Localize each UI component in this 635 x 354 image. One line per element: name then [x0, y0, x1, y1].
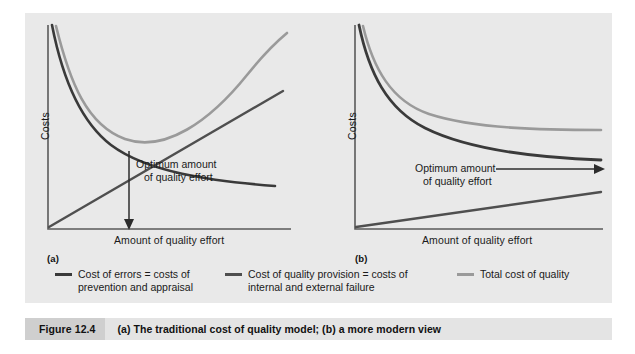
chart-b-optimum-arrow-head: [594, 164, 605, 174]
legend-item-total-cost: Total cost of quality: [457, 268, 569, 281]
chart-a-y-axis-label: Costs: [39, 112, 51, 140]
legend-label-cost-of-errors: Cost of errors = costs of prevention and…: [78, 268, 193, 294]
legend-item-quality-provision: Cost of quality provision = costs of int…: [225, 268, 408, 294]
chart-a-group: [48, 25, 291, 230]
chart-a-axes: [48, 25, 291, 229]
chart-b-total-cost-curve: [363, 26, 601, 130]
figure-container: Costs Amount of quality effort (a) Optim…: [0, 0, 635, 354]
chart-a-x-axis-label: Amount of quality effort: [114, 234, 224, 246]
chart-b-optimum-annotation-line1: Optimum amount: [415, 162, 496, 175]
figure-caption-bar: Figure 12.4 (a) The traditional cost of …: [25, 318, 612, 340]
legend-item-cost-of-errors: Cost of errors = costs of prevention and…: [55, 268, 193, 294]
chart-a-panel-tag: (a): [47, 253, 59, 264]
charts-svg: [25, 13, 612, 303]
legend-label-total-cost: Total cost of quality: [480, 268, 569, 281]
legend-swatch-total-cost: [457, 273, 474, 276]
legend: Cost of errors = costs of prevention and…: [25, 266, 612, 300]
chart-b-optimum-annotation-line2: of quality effort: [415, 175, 496, 188]
chart-b-axes: [355, 25, 603, 229]
chart-b-quality-provision-line: [356, 192, 601, 227]
chart-a-optimum-annotation-line1: Optimum amount: [136, 158, 217, 171]
legend-swatch-quality-provision: [225, 273, 242, 276]
chart-a-optimum-annotation: Optimum amount of quality effort: [136, 158, 217, 184]
figure-number-tag: Figure 12.4: [25, 318, 105, 340]
figure-caption-text: (a) The traditional cost of quality mode…: [105, 323, 442, 335]
chart-b-panel-tag: (b): [355, 253, 368, 264]
chart-b-y-axis-label: Costs: [346, 112, 358, 140]
chart-b-group: [355, 25, 605, 229]
charts-panel: Costs Amount of quality effort (a) Optim…: [25, 13, 612, 303]
legend-label-quality-provision: Cost of quality provision = costs of int…: [248, 268, 408, 294]
chart-b-optimum-annotation: Optimum amount of quality effort: [415, 162, 496, 188]
chart-b-x-axis-label: Amount of quality effort: [422, 234, 532, 246]
legend-swatch-cost-of-errors: [55, 273, 72, 276]
chart-a-optimum-annotation-line2: of quality effort: [136, 171, 217, 184]
